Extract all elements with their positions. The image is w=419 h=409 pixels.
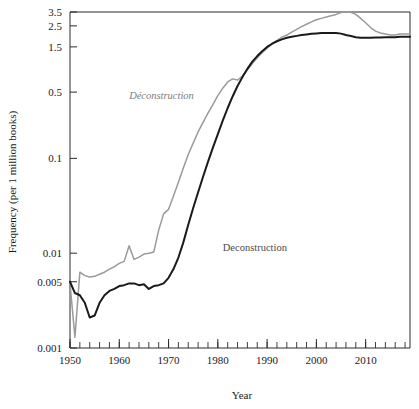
y-tick-label: 3.5 [48,6,62,18]
x-tick-label: 1970 [158,354,181,366]
x-tick-label: 1990 [256,354,279,366]
x-tick-label: 1980 [207,354,230,366]
y-tick-label: 2.5 [48,20,62,32]
y-tick-label: 0.1 [48,152,62,164]
y-tick-label: 0.01 [43,247,62,259]
x-tick-label: 2010 [355,354,378,366]
x-tick-label: 1950 [59,354,82,366]
series-label-french: Déconstruction [128,90,194,101]
x-tick-label: 2000 [305,354,328,366]
ngram-chart-figure: 3.52.51.50.50.10.010.0050.001 1950196019… [0,0,419,409]
x-tick-label: 1960 [108,354,131,366]
y-tick-label: 1.5 [48,41,62,53]
x-axis-title: Year [232,389,253,401]
chart-canvas: 3.52.51.50.50.10.010.0050.001 1950196019… [0,0,419,409]
series-label-english: Deconstruction [223,242,288,253]
y-tick-label: 0.001 [37,342,62,354]
y-tick-label: 0.005 [37,276,62,288]
y-tick-label: 0.5 [48,86,62,98]
y-axis-title: Frequency (per 1 million books) [6,110,19,253]
